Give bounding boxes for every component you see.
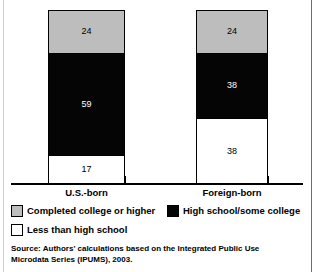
stacked-bar-foreign-born: 24 38 38 [196,10,268,183]
axis-tick [48,176,49,183]
legend-swatch-white-icon [11,224,23,236]
legend-swatch-black-icon [167,205,179,217]
x-axis-line [11,183,303,185]
bar-segment-us-born-lessthanhs: 17 [49,155,124,185]
bar-segment-value: 38 [227,81,237,90]
axis-tick [125,176,126,183]
chart-figure: 24 59 17 24 38 38 U.S.-bor [0,0,320,272]
legend-label: Less than high school [27,224,127,236]
bar-segment-us-born-highschool: 59 [49,53,124,155]
axis-tick [268,176,269,183]
legend-label: Completed college or higher [27,205,155,217]
bar-segment-foreign-born-college: 24 [197,11,267,53]
bar-segment-value: 59 [81,100,91,109]
bar-segment-us-born-college: 24 [49,11,124,53]
source-note-line-1: Source: Authors' calculations based on t… [11,243,303,254]
chart-legend: Completed college or higher High school/… [0,205,320,241]
legend-swatch-gray-icon [11,205,23,217]
plot-area: 24 59 17 24 38 38 U.S.-bor [0,0,320,190]
axis-tick [196,176,197,183]
stacked-bar-us-born: 24 59 17 [48,10,125,183]
bar-segment-foreign-born-highschool: 38 [197,53,267,119]
source-note: Source: Authors' calculations based on t… [11,243,303,265]
bar-segment-value: 38 [227,147,237,156]
x-axis-label-foreign-born: Foreign-born [196,187,268,198]
legend-item-completed-college: Completed college or higher [11,205,155,217]
bar-segment-value: 24 [81,27,91,36]
bar-segment-foreign-born-lessthanhs: 38 [197,118,267,184]
bar-segment-value: 17 [81,165,91,174]
x-axis-label-us-born: U.S.-born [48,187,125,198]
legend-item-high-school: High school/some college [167,205,300,217]
source-note-line-2: Microdata Series (IPUMS), 2003. [11,254,303,265]
legend-label: High school/some college [183,205,300,217]
legend-item-less-than-high-school: Less than high school [11,224,127,236]
bar-segment-value: 24 [227,27,237,36]
